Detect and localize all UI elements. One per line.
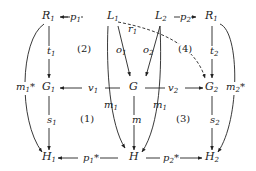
label-m: m — [132, 115, 141, 125]
region-3-label: (3) — [176, 114, 190, 124]
label-p2-star: p2* — [163, 153, 179, 166]
label-t2: t2 — [210, 46, 219, 59]
region-2-label: (2) — [77, 44, 91, 54]
node-L2: L2 — [155, 11, 167, 24]
node-G1: G1 — [42, 82, 55, 95]
label-v1: v1 — [88, 83, 98, 96]
node-H1: H1 — [42, 152, 56, 165]
node-G2: G2 — [205, 82, 218, 95]
label-m1-left: m1 — [104, 100, 118, 113]
region-1-label: (1) — [80, 114, 94, 124]
label-m1-star: m1* — [16, 82, 35, 95]
node-R-right: R1 — [205, 11, 218, 24]
label-r1: r1 — [128, 24, 137, 37]
node-G: G — [129, 82, 138, 92]
label-v2: v2 — [168, 83, 178, 96]
label-p2: p2 — [180, 12, 191, 25]
label-p1-star: p1* — [83, 153, 99, 166]
label-o2: o2 — [143, 45, 154, 58]
label-m1-right: m1 — [153, 100, 167, 113]
label-o1: o1 — [116, 45, 127, 58]
region-4-label: (4) — [178, 44, 192, 54]
node-H: H — [129, 152, 139, 162]
node-R1-left: R1 — [42, 11, 55, 24]
label-s2: s2 — [210, 115, 220, 128]
label-t1: t1 — [47, 46, 56, 59]
label-m2-star: m2* — [226, 82, 245, 95]
label-s1: s1 — [47, 115, 57, 128]
node-H2: H2 — [205, 152, 219, 165]
label-p1: p1 — [70, 12, 81, 25]
node-L1: L1 — [107, 11, 119, 24]
